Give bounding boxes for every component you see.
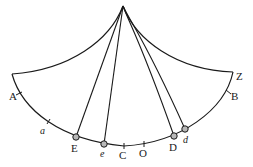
string-to-D: [123, 6, 174, 136]
bob-d: [182, 126, 188, 132]
string-to-e: [104, 6, 123, 144]
label-Z: Z: [236, 70, 243, 82]
label-e: e: [100, 148, 105, 159]
label-A: A: [9, 90, 17, 102]
label-B: B: [231, 90, 238, 102]
label-C: C: [119, 149, 126, 161]
label-D: D: [169, 141, 177, 153]
bob-e: [101, 141, 107, 147]
left-cycloid-cheek: [12, 6, 123, 74]
right-cycloid-cheek: [123, 6, 233, 72]
string-to-E: [76, 6, 123, 137]
bob-E: [73, 134, 79, 140]
bob-D: [171, 133, 177, 139]
label-a: a: [40, 125, 45, 136]
label-E: E: [71, 142, 78, 154]
cycloidal-pendulum-diagram: A a E e C O D d B Z: [0, 0, 253, 167]
label-d: d: [183, 134, 189, 145]
label-O: O: [139, 147, 147, 159]
bottom-cycloid-arc: [12, 72, 233, 146]
